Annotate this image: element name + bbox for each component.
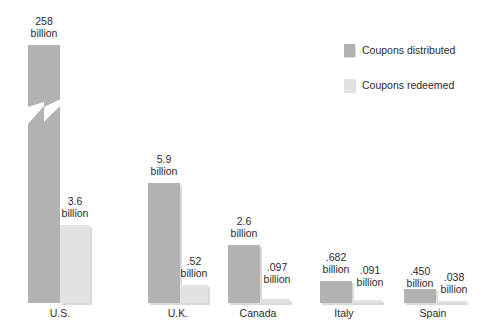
category-label-italy: Italy — [318, 307, 370, 319]
value-unit: billion — [164, 268, 224, 280]
bar-uk-redeemed — [180, 285, 208, 303]
value-label-canada-redeemed: .097 billion — [246, 262, 308, 285]
legend-swatch-distributed — [344, 44, 355, 57]
value-label-us-redeemed: 3.6 billion — [45, 196, 105, 219]
category-label-us: U.S. — [29, 307, 91, 319]
bar-canada-redeemed — [260, 299, 290, 303]
value-label-canada-distributed: 2.6 billion — [214, 216, 274, 239]
category-label-canada: Canada — [222, 307, 294, 319]
bar-italy-redeemed — [352, 300, 382, 303]
value-label-spain-redeemed: .038 billion — [424, 272, 484, 295]
value-number: .097 — [246, 262, 308, 274]
legend-swatch-redeemed — [344, 79, 355, 92]
value-unit: billion — [134, 166, 194, 178]
category-label-spain: Spain — [404, 307, 462, 319]
legend-item-coupons-redeemed: Coupons redeemed — [344, 79, 454, 92]
value-unit: billion — [424, 284, 484, 296]
coupons-bar-chart: Coupons distributed Coupons redeemed 258… — [0, 0, 486, 333]
bar-us-distributed-upper — [28, 45, 60, 107]
legend-item-coupons-distributed: Coupons distributed — [344, 44, 455, 57]
category-label-uk: U.K. — [148, 307, 208, 319]
bar-us-redeemed — [60, 225, 90, 303]
value-number: 3.6 — [45, 196, 105, 208]
value-label-us-distributed: 258 billion — [14, 16, 74, 39]
value-number: 2.6 — [214, 216, 274, 228]
value-number: 5.9 — [134, 154, 194, 166]
bar-uk-distributed — [148, 183, 180, 303]
legend-label-redeemed: Coupons redeemed — [362, 79, 454, 91]
value-number: .682 — [306, 252, 366, 264]
value-unit: billion — [246, 274, 308, 286]
value-unit: billion — [14, 28, 74, 40]
value-number: .038 — [424, 272, 484, 284]
value-label-uk-redeemed: .52 billion — [164, 256, 224, 279]
legend-label-distributed: Coupons distributed — [362, 44, 455, 56]
bar-spain-redeemed — [436, 301, 466, 303]
value-number: .52 — [164, 256, 224, 268]
value-number: 258 — [14, 16, 74, 28]
value-unit: billion — [214, 228, 274, 240]
value-label-uk-distributed: 5.9 billion — [134, 154, 194, 177]
value-unit: billion — [45, 208, 105, 220]
